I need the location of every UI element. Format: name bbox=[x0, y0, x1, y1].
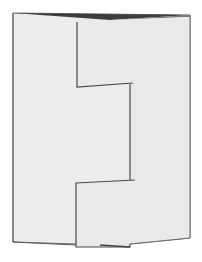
folded-card-illustration bbox=[0, 0, 202, 262]
